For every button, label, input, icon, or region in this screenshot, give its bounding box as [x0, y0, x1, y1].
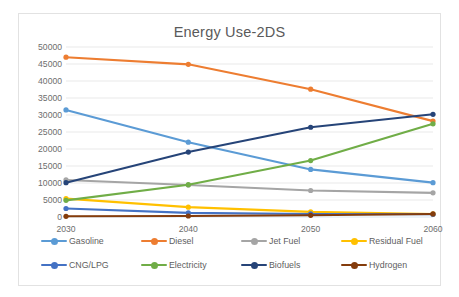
x-axis-tick-label: 2030 — [56, 224, 75, 234]
legend-item-residual-fuel[interactable]: Residual Fuel — [341, 236, 423, 246]
legend-label: Hydrogen — [369, 260, 407, 270]
chart-legend: GasolineDieselJet FuelResidual FuelCNG/L… — [29, 236, 434, 280]
legend-swatch-icon — [141, 260, 167, 270]
legend-swatch-icon — [341, 236, 367, 246]
legend-item-hydrogen[interactable]: Hydrogen — [341, 260, 407, 270]
legend-label: Electricity — [169, 260, 207, 270]
legend-label: Gasoline — [69, 236, 104, 246]
legend-swatch-icon — [141, 236, 167, 246]
legend-item-biofuels[interactable]: Biofuels — [241, 260, 300, 270]
legend-item-cng-lpg[interactable]: CNG/LPG — [41, 260, 109, 270]
legend-row: CNG/LPGElectricityBiofuelsHydrogen — [29, 260, 434, 280]
legend-label: Jet Fuel — [269, 236, 300, 246]
chart-card: Energy Use-2DS 0500010000150002000025000… — [18, 13, 441, 286]
legend-item-jet-fuel[interactable]: Jet Fuel — [241, 236, 300, 246]
legend-row: GasolineDieselJet FuelResidual Fuel — [29, 236, 434, 256]
legend-item-gasoline[interactable]: Gasoline — [41, 236, 104, 246]
legend-label: CNG/LPG — [69, 260, 109, 270]
legend-swatch-icon — [341, 260, 367, 270]
legend-item-electricity[interactable]: Electricity — [141, 260, 207, 270]
legend-swatch-icon — [41, 236, 67, 246]
x-axis-tick-label: 2040 — [179, 224, 198, 234]
legend-label: Biofuels — [269, 260, 300, 270]
legend-label: Diesel — [169, 236, 193, 246]
legend-swatch-icon — [41, 260, 67, 270]
legend-swatch-icon — [241, 260, 267, 270]
legend-swatch-icon — [241, 236, 267, 246]
legend-item-diesel[interactable]: Diesel — [141, 236, 193, 246]
x-axis-tick-label: 2060 — [423, 224, 442, 234]
x-axis-tick-label: 2050 — [301, 224, 320, 234]
legend-label: Residual Fuel — [369, 236, 423, 246]
